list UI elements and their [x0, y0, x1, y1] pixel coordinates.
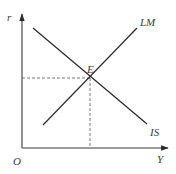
lm-label: LM — [139, 16, 156, 28]
origin-label: O — [13, 155, 21, 167]
r-axis-label: r — [7, 11, 12, 23]
is-lm-diagram: r O Y LM IS E — [0, 0, 176, 174]
y-axis-label: Y — [157, 153, 165, 165]
is-label: IS — [149, 126, 160, 138]
equilibrium-label: E — [86, 63, 94, 75]
